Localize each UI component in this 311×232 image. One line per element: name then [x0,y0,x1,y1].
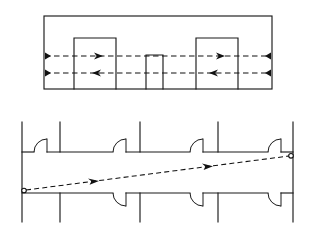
door-lower-3-swing-arc [268,193,281,206]
diagonal-flow-line [26,156,289,190]
diagonal-flow-end-marker [289,154,294,159]
door-upper-2 [113,139,126,152]
door-lower-1 [113,193,126,206]
floor-plan-panel [22,122,294,222]
door-upper-1 [34,139,47,152]
door-upper-1-swing-arc [34,139,47,152]
door-upper-4 [268,139,281,152]
baffle-block-left [74,38,116,89]
diagram-root [0,0,311,232]
diagonal-flow-start-marker [22,188,27,193]
door-lower-3 [268,193,281,206]
door-lower-2-swing-arc [190,193,203,206]
diagonal-flow-arrow-1 [88,178,99,184]
flow-endpoint-lower-left-icon [45,70,51,77]
door-upper-4-swing-arc [268,139,281,152]
flow-endpoint-upper-right-icon [265,53,271,60]
diagonal-flow-arrow-2 [202,164,213,170]
door-lower-2 [190,193,203,206]
flow-endpoint-upper-left-icon [45,53,51,60]
baffle-block-center [146,55,163,89]
flow-endpoint-lower-right-icon [265,70,271,77]
baffle-block-right [196,38,238,89]
section-view-panel [44,16,272,89]
door-upper-2-swing-arc [113,139,126,152]
door-upper-3-swing-arc [190,139,203,152]
diagram-canvas [0,0,311,232]
door-lower-1-swing-arc [113,193,126,206]
door-upper-3 [190,139,203,152]
